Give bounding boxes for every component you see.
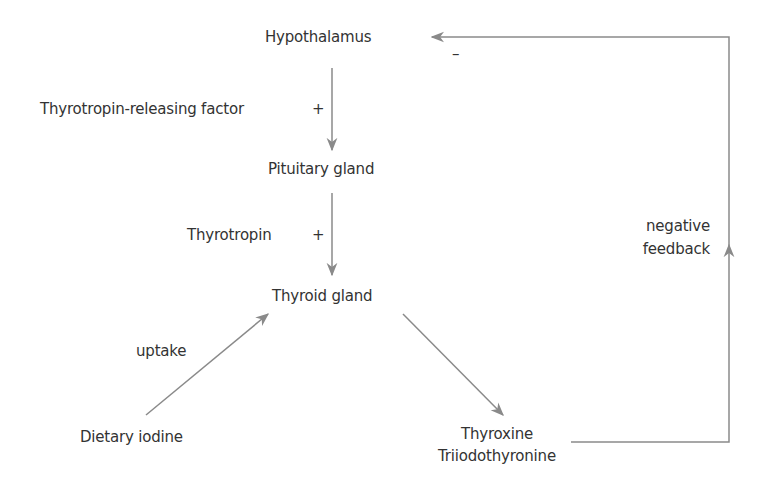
node-triiodothyronine: Triiodothyronine: [417, 447, 577, 465]
feedback-line: [571, 245, 729, 442]
arrow-iodine-to-thyroid: [146, 314, 268, 415]
label-negative: negative: [636, 217, 710, 235]
node-dietary-iodine: Dietary iodine: [80, 428, 183, 446]
node-thyroxine: Thyroxine: [427, 425, 567, 443]
feedback-line-top: [432, 37, 729, 245]
label-feedback: feedback: [626, 240, 710, 258]
label-uptake: uptake: [136, 342, 186, 360]
node-pituitary: Pituitary gland: [268, 160, 374, 178]
thyroid-regulation-diagram: Hypothalamus – Thyrotropin-releasing fac…: [0, 0, 770, 499]
negative-sign: –: [452, 45, 459, 63]
node-thyroid: Thyroid gland: [272, 287, 372, 305]
label-thyrotropin: Thyrotropin: [187, 226, 271, 244]
node-hypothalamus: Hypothalamus: [265, 28, 371, 46]
label-trf: Thyrotropin-releasing factor: [40, 100, 244, 118]
arrow-thyroid-to-hormones: [403, 314, 503, 415]
plus-sign-trf: +: [312, 100, 324, 118]
plus-sign-tsh: +: [312, 226, 324, 244]
